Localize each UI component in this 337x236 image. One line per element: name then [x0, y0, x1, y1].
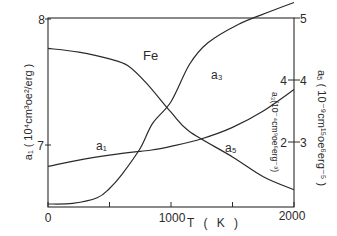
right-outer-tick-label-4: 4 [300, 74, 307, 88]
series-label-a1: a₁ [96, 139, 107, 153]
left-tick-label-7: 7 [37, 139, 44, 153]
x-tick-label-1000: 1000 [159, 211, 186, 225]
right-outer-tick-label-3: 3 [300, 136, 307, 150]
series-label-a3: a₃ [211, 68, 223, 82]
right-outer-tick-label-5: 5 [300, 12, 307, 26]
right-inner-axis-label: a₃(10⁻⁴cm⁹oe⁶erg⁻³) [270, 92, 280, 172]
curve-a3 [48, 3, 294, 205]
left-tick-label-8: 8 [38, 13, 45, 27]
labels: 0 1000 2000 T ( K ) 8 7 a₁ ( 10⁴cm³oe²/e… [22, 12, 328, 230]
right-inner-tick-label-4: 4 [280, 74, 287, 88]
title-fe: Fe [143, 48, 158, 63]
x-tick-label-2000: 2000 [279, 209, 306, 223]
curve-a5 [48, 48, 294, 189]
series-label-a5: a₅ [225, 141, 237, 155]
chart: 0 1000 2000 T ( K ) 8 7 a₁ ( 10⁴cm³oe²/e… [0, 0, 337, 236]
x-axis-label: T ( K ) [187, 216, 241, 230]
curves [48, 3, 294, 205]
x-tick-label-0: 0 [45, 211, 52, 225]
left-axis-label: a₁ ( 10⁴cm³oe²/erg ) [22, 64, 34, 160]
right-outer-axis-label: a₅ ( 10⁻⁹cm¹⁵oe⁶erg⁻⁵ ) [316, 70, 328, 186]
right-inner-tick-label-2: 2 [280, 136, 287, 150]
